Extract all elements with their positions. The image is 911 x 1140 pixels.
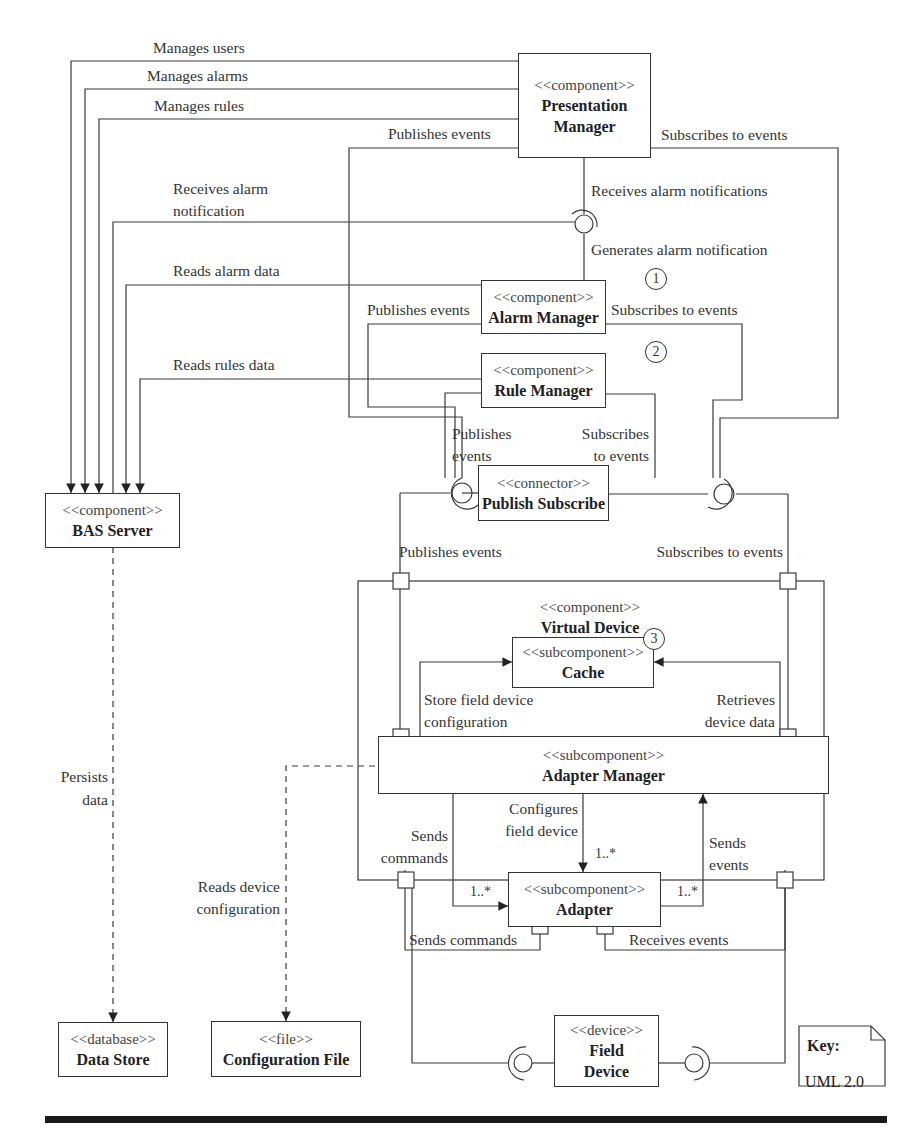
label-pm-publishes-events: Publishes events [388,124,491,143]
label-configures-2: field device [490,821,578,840]
configuration-file: <<file>> Configuration File [211,1021,361,1077]
connector-lines [0,0,911,1140]
component-name: Configuration File [223,1049,350,1070]
multiplicity-left: 1..* [470,884,491,900]
label-retrieves-1: Retrieves [660,690,775,709]
label-rm-subscribes-1: Subscribes [580,424,649,443]
stereotype: <<device>> [570,1020,643,1040]
virtual-device-title: <<component>> Virtual Device [480,596,700,638]
key-title: Key: [807,1037,840,1055]
data-store-database: <<database>> Data Store [58,1022,168,1077]
label-store-config-2: configuration [424,712,508,731]
key-value: UML 2.0 [805,1073,864,1091]
component-name: Presentation [542,95,628,116]
label-configures-1: Configures [490,799,578,818]
presentation-manager-component: <<component>> Presentation Manager [518,53,651,158]
rule-manager-component: <<component>> Rule Manager [481,353,606,408]
label-rm-publishes-2: events [452,446,492,465]
multiplicity-right: 1..* [677,884,698,900]
label-persists-1: Persists [30,767,108,786]
component-name: Device [584,1061,629,1082]
badge-2: 2 [645,341,667,363]
label-sends-events-2: events [709,855,749,874]
component-name: Publish Subscribe [482,493,605,514]
label-generates-alarm-notification: Generates alarm notification [591,240,767,259]
stereotype: <<subcomponent>> [524,879,645,899]
stereotype: <<file>> [259,1029,313,1049]
label-pm-subscribes-to-events: Subscribes to events [661,125,788,144]
stereotype: <<component>> [493,360,594,380]
label-receives-alarm-notifications: Receives alarm notifications [591,181,767,200]
stereotype: <<subcomponent>> [522,642,643,662]
component-name: Cache [562,662,605,683]
label-reads-rules-data: Reads rules data [173,355,275,374]
badge-3: 3 [643,628,665,650]
label-receives-alarm-1: Receives alarm [173,179,268,198]
label-reads-alarm-data: Reads alarm data [173,261,280,280]
label-reads-device-config-2: configuration [160,899,280,918]
label-reads-device-config-1: Reads device [160,877,280,896]
bas-server-component: <<component>> BAS Server [45,493,180,548]
label-receives-alarm-2: notification [173,201,244,220]
stereotype: <<database>> [70,1029,155,1049]
adapter-subcomponent: <<subcomponent>> Adapter [508,872,661,927]
alarm-manager-component: <<component>> Alarm Manager [481,280,606,334]
label-vd-subscribes-to-events: Subscribes to events [600,542,783,561]
stereotype: <<component>> [493,287,594,307]
publish-subscribe-connector: <<connector>> Publish Subscribe [478,465,609,521]
label-am-subscribes-to-events: Subscribes to events [611,300,738,319]
component-name: Adapter [556,899,613,920]
label-sends-events-1: Sends [709,833,746,852]
stereotype: <<component>> [534,75,635,95]
label-manages-rules: Manages rules [154,96,244,115]
adapter-manager-subcomponent: <<subcomponent>> Adapter Manager [378,736,829,794]
label-store-config-1: Store field device [424,690,533,709]
component-name: Virtual Device [541,617,639,638]
label-manages-users: Manages users [153,38,245,57]
component-name: Alarm Manager [488,307,599,328]
label-retrieves-2: device data [660,712,775,731]
component-name: Manager [553,116,615,137]
label-am-publishes-events: Publishes events [367,300,470,319]
component-name: Data Store [76,1049,149,1070]
label-manages-alarms: Manages alarms [147,66,248,85]
label-adapter-sends-commands: Sends commands [409,930,517,949]
component-name: BAS Server [72,520,152,541]
component-name: Rule Manager [494,380,592,401]
field-device: <<device>> Field Device [554,1015,659,1087]
stereotype: <<subcomponent>> [543,745,664,765]
label-sends-commands-2: commands [360,848,448,867]
label-sends-commands-1: Sends [360,826,448,845]
multiplicity-top: 1..* [595,846,616,862]
label-persists-2: data [30,790,108,809]
cache-subcomponent: <<subcomponent>> Cache [512,637,654,688]
stereotype: <<connector>> [497,473,590,493]
badge-1: 1 [645,268,667,290]
key-note: Key: UML 2.0 [798,1025,886,1087]
component-name: Adapter Manager [542,765,665,786]
label-adapter-receives-events: Receives events [629,930,728,949]
label-rm-publishes-1: Publishes [452,424,511,443]
label-vd-publishes-events: Publishes events [399,542,502,561]
label-rm-subscribes-2: to events [580,446,649,465]
stereotype: <<component>> [540,597,641,617]
component-name: Field [589,1040,624,1061]
stereotype: <<component>> [62,500,163,520]
